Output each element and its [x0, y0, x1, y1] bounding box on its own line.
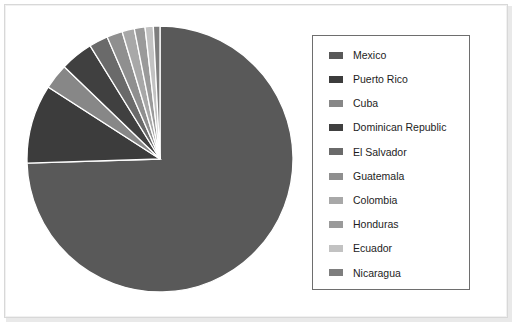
legend-item[interactable]: Nicaragua [313, 261, 469, 285]
legend-item-label: Colombia [353, 195, 397, 206]
pie-chart-svg [26, 25, 294, 293]
legend-swatch-icon [329, 100, 343, 107]
legend-swatch-icon [329, 269, 343, 276]
legend-swatch-icon [329, 124, 343, 131]
legend-item[interactable]: El Salvador [313, 140, 469, 164]
pie-chart-figure: MexicoPuerto RicoCubaDominican RepublicE… [0, 0, 514, 324]
legend-item[interactable]: Dominican Republic [313, 116, 469, 140]
legend-swatch-icon [329, 173, 343, 180]
legend-item-label: El Salvador [353, 147, 407, 158]
legend-item-label: Ecuador [353, 243, 392, 254]
legend-item-label: Puerto Rico [353, 74, 408, 85]
legend-item-label: Honduras [353, 219, 399, 230]
legend-item[interactable]: Colombia [313, 188, 469, 212]
chart-page: MexicoPuerto RicoCubaDominican RepublicE… [0, 0, 514, 324]
legend-swatch-icon [329, 52, 343, 59]
pie-chart [26, 25, 294, 293]
legend-box: MexicoPuerto RicoCubaDominican RepublicE… [312, 35, 470, 290]
legend-swatch-icon [329, 76, 343, 83]
legend-item[interactable]: Ecuador [313, 237, 469, 261]
legend-item[interactable]: Guatemala [313, 164, 469, 188]
legend-item[interactable]: Honduras [313, 212, 469, 236]
legend-swatch-icon [329, 245, 343, 252]
legend-item-label: Nicaragua [353, 268, 401, 279]
legend-item[interactable]: Cuba [313, 91, 469, 115]
legend-item-label: Cuba [353, 98, 378, 109]
legend-item[interactable]: Mexico [313, 43, 469, 67]
pie-slice-group [27, 26, 293, 292]
legend-item-label: Mexico [353, 50, 386, 61]
legend-item-label: Dominican Republic [353, 122, 446, 133]
legend-swatch-icon [329, 197, 343, 204]
legend-swatch-icon [329, 221, 343, 228]
legend-swatch-icon [329, 148, 343, 155]
legend-item[interactable]: Puerto Rico [313, 67, 469, 91]
legend-item-label: Guatemala [353, 171, 404, 182]
